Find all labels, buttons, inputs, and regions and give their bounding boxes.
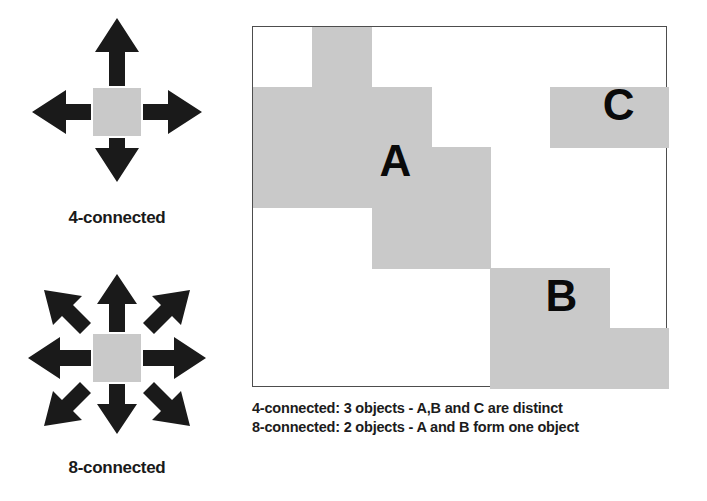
label-4-connected: 4-connected bbox=[2, 208, 232, 228]
arrow-up-icon bbox=[95, 18, 139, 86]
arrow-down-right-icon bbox=[143, 382, 190, 426]
figure-canvas: 4-connected bbox=[0, 0, 707, 501]
caption-line-4-connected: 4-connected: 3 objects - A,B and C are d… bbox=[252, 399, 702, 418]
rosette-4-connected-svg bbox=[12, 12, 222, 202]
center-pixel bbox=[93, 334, 141, 382]
region-label-c: C bbox=[603, 83, 634, 127]
pixel-cell bbox=[372, 208, 432, 269]
arrow-up-right-icon bbox=[143, 290, 190, 334]
center-pixel bbox=[93, 88, 141, 136]
pixel-cell bbox=[312, 27, 372, 88]
pixel-cell bbox=[253, 147, 313, 208]
arrow-down-left-icon bbox=[44, 382, 91, 426]
pixel-cell bbox=[550, 328, 610, 389]
pixel-cell bbox=[253, 87, 313, 148]
rosette-8-connected bbox=[12, 258, 222, 448]
caption: 4-connected: 3 objects - A,B and C are d… bbox=[252, 399, 702, 437]
arrow-left-icon bbox=[28, 337, 91, 379]
pixel-grid-panel: ABC bbox=[252, 26, 669, 389]
rosette-4-connected bbox=[12, 12, 222, 202]
arrow-up-left-icon bbox=[44, 290, 91, 334]
arrow-right-icon bbox=[143, 337, 206, 379]
region-label-a: A bbox=[380, 139, 411, 183]
arrow-left-icon bbox=[32, 90, 91, 134]
arrow-down-icon bbox=[95, 138, 139, 182]
arrow-up-icon bbox=[97, 274, 137, 332]
pixel-cell bbox=[312, 87, 372, 148]
pixel-cell bbox=[550, 87, 610, 148]
arrow-right-icon bbox=[143, 90, 202, 134]
pixel-cell bbox=[431, 147, 491, 208]
pixel-cell bbox=[609, 328, 669, 389]
region-label-b: B bbox=[546, 274, 577, 318]
label-8-connected: 8-connected bbox=[2, 458, 232, 478]
pixel-cell bbox=[490, 328, 550, 389]
pixel-cell bbox=[490, 268, 550, 329]
pixel-cell bbox=[312, 147, 372, 208]
pixel-grid: ABC bbox=[252, 26, 667, 387]
rosette-8-connected-svg bbox=[12, 258, 222, 448]
arrow-down-icon bbox=[97, 384, 137, 434]
caption-line-8-connected: 8-connected: 2 objects - A and B form on… bbox=[252, 418, 702, 437]
pixel-cell bbox=[431, 208, 491, 269]
